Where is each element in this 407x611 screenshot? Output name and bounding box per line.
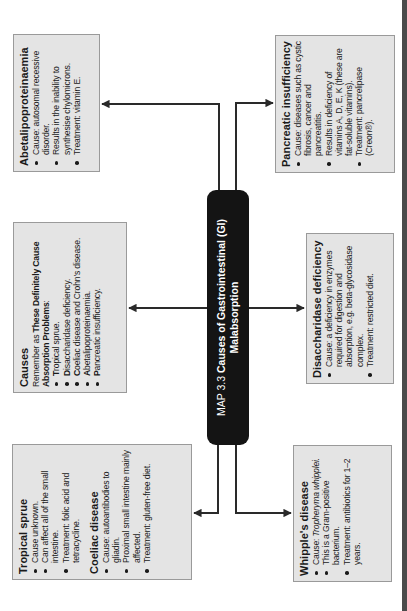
list-item: Treatment: vitamin E.	[72, 40, 82, 166]
box-title: Disaccharidase deficiency	[311, 239, 323, 378]
list-item: Can affect all of the small intestine.	[40, 450, 60, 574]
list-item: Treatment: pancrelipase (Creon®).	[354, 41, 374, 167]
list-item: Results in the inability to synthesise c…	[51, 40, 71, 166]
map-title-line1: MAP 3.3 Causes of Gastrointestinal (GI)	[215, 219, 228, 416]
list-item: Tropical sprue.	[51, 228, 61, 387]
list-item: Treatment: gluten-free diet.	[142, 450, 152, 574]
diagram-stage: MAP 3.3 Causes of Gastrointestinal (GI) …	[0, 0, 407, 611]
list-item: Cause: diseases such as cystic fibrosis,…	[293, 41, 324, 167]
list-item: Cause: autosomal recessive disorder.	[31, 40, 51, 166]
box-title: Whipple's disease	[298, 451, 310, 576]
list-item: This is a Gram-positive bacterium.	[321, 451, 341, 576]
arrow-to-pancreatic	[236, 103, 273, 190]
map-title-box: MAP 3.3 Causes of Gastrointestinal (GI) …	[207, 190, 249, 445]
box-title: Tropical sprue	[17, 450, 29, 574]
mnemonic-intro: Remember as These Definitely Cause Absor…	[31, 228, 51, 387]
list-item: Results in deficiency of vitamins A, D, …	[324, 41, 355, 167]
box-title: Causes	[18, 228, 30, 387]
pancreatic-insufficiency-box: Pancreatic insufficiency Cause: diseases…	[275, 35, 395, 173]
abetalipoproteinaemia-box: Abetalipoproteinaemia Cause: autosomal r…	[13, 34, 100, 172]
arrow-to-abetalipoproteinaemia	[102, 104, 219, 190]
list-item: Cause: autoantibodies to gliadin.	[101, 450, 121, 574]
list-item: Disaccharidase deficiency.	[62, 228, 72, 387]
page-edge-bar	[402, 0, 407, 611]
box-title: Abetalipoproteinaemia	[18, 40, 30, 166]
list-item: Coeliac disease and Crohn's disease.	[72, 228, 82, 387]
list-item: Cause: Tropheryma whipplei.	[311, 451, 321, 576]
list-item: Proximal small intestine mainly affected…	[121, 450, 141, 574]
organism-name: Tropheryma whipplei.	[311, 458, 321, 537]
coeliac-title: Coeliac disease	[88, 450, 100, 574]
arrow-to-whipple	[236, 445, 291, 513]
tropical-sprue-coeliac-box: Tropical sprue Cause unknown. Can affect…	[12, 444, 192, 580]
causes-box: Causes Remember as These Definitely Caus…	[13, 222, 127, 393]
list-item: Treatment: antibiotics for 1–2 years.	[342, 451, 362, 576]
whipples-disease-box: Whipple's disease Cause: Tropheryma whip…	[293, 445, 392, 582]
map-title-line2: Malabsorption	[228, 282, 241, 354]
map-title-text: Causes of Gastrointestinal (GI)	[215, 219, 227, 373]
box-title: Pancreatic insufficiency	[280, 41, 292, 167]
list-item: Treatment: restricted diet.	[365, 239, 375, 378]
list-item: Pancreatic insufficiency.	[92, 228, 102, 387]
list-item: Abetalipoproteinaemia.	[82, 228, 92, 387]
list-item: Treatment: folic acid and tetracycline.	[61, 450, 81, 574]
disaccharidase-deficiency-box: Disaccharidase deficiency Cause: a defic…	[306, 233, 394, 384]
map-number: MAP 3.3	[215, 376, 227, 416]
list-item: Cause unknown.	[30, 450, 40, 574]
arrow-to-tropical-sprue	[194, 445, 218, 513]
list-item: Cause: a deficiency in enzymes required …	[324, 239, 365, 378]
